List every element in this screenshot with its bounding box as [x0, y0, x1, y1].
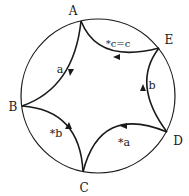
- edge-label-b-star: *b: [50, 127, 63, 140]
- arrow-up-icon: [140, 84, 146, 91]
- edge-a-AB: [22, 21, 81, 106]
- edge-label-a: a: [57, 63, 64, 76]
- vertex-label-B: B: [9, 100, 18, 114]
- hyperbolic-disk-diagram: A E D C B a *c=c b *a *b: [0, 0, 189, 196]
- arrow-down-icon: [68, 69, 74, 76]
- boundary-circle: [21, 19, 175, 173]
- arrow-left-icon: [113, 54, 120, 60]
- edge-label-c-star-eq-c: *c=c: [106, 38, 131, 49]
- vertex-label-E: E: [165, 33, 174, 47]
- edge-label-b: b: [148, 79, 155, 92]
- vertex-label-C: C: [79, 181, 88, 195]
- vertex-label-A: A: [68, 4, 78, 18]
- edge-label-a-star: *a: [118, 136, 131, 149]
- vertex-label-D: D: [173, 134, 183, 148]
